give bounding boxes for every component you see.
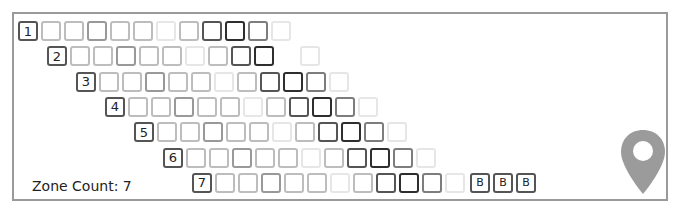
zone-cell[interactable] (185, 46, 205, 66)
zone-cell[interactable] (174, 97, 194, 117)
zone-cell[interactable] (145, 72, 165, 92)
zone-cell[interactable] (376, 173, 396, 193)
zone-label[interactable]: 4 (105, 97, 125, 117)
zone-cell[interactable] (416, 148, 436, 168)
zone-cell[interactable] (347, 148, 367, 168)
zone-row-5: 5 (134, 122, 410, 142)
zone-cell[interactable] (266, 97, 286, 117)
zone-row-7: 7BBB (192, 173, 539, 193)
zone-cell[interactable] (237, 72, 257, 92)
zone-cell[interactable] (387, 122, 407, 142)
zone-cell[interactable] (162, 46, 182, 66)
zone-cell[interactable] (301, 148, 321, 168)
zone-cell[interactable] (197, 97, 217, 117)
zone-row-6: 6 (163, 148, 439, 168)
zone-cell[interactable] (186, 148, 206, 168)
zone-cell[interactable] (41, 21, 61, 41)
zone-label[interactable]: 3 (76, 72, 96, 92)
zone-cell[interactable] (238, 173, 258, 193)
zone-cell[interactable] (330, 173, 350, 193)
zone-cell[interactable] (364, 122, 384, 142)
zone-cell[interactable] (220, 97, 240, 117)
zone-cell[interactable] (202, 21, 222, 41)
zone-cell[interactable] (232, 148, 252, 168)
zone-cell[interactable] (353, 173, 373, 193)
zone-cell[interactable] (393, 148, 413, 168)
zone-cell[interactable] (157, 122, 177, 142)
zone-cell[interactable] (214, 72, 234, 92)
zone-cell[interactable] (156, 21, 176, 41)
zone-cell[interactable] (93, 46, 113, 66)
zone-cell[interactable] (284, 173, 304, 193)
zone-cell[interactable] (399, 173, 419, 193)
zone-cell[interactable] (300, 46, 320, 66)
zone-cell[interactable] (422, 173, 442, 193)
b-zone-cell[interactable]: B (493, 173, 513, 193)
zone-cell[interactable] (306, 72, 326, 92)
zone-cell[interactable] (370, 148, 390, 168)
zone-cell[interactable] (209, 148, 229, 168)
zone-cell[interactable] (295, 122, 315, 142)
zone-cell[interactable] (283, 72, 303, 92)
zone-cell[interactable] (110, 21, 130, 41)
zone-cell[interactable] (203, 122, 223, 142)
zone-label[interactable]: 5 (134, 122, 154, 142)
zone-cell[interactable] (260, 72, 280, 92)
zone-cell[interactable] (64, 21, 84, 41)
zone-label[interactable]: 1 (18, 21, 38, 41)
zone-cell[interactable] (168, 72, 188, 92)
zone-label[interactable]: 2 (47, 46, 67, 66)
map-pin-icon (618, 128, 668, 198)
zone-cell[interactable] (231, 46, 251, 66)
zone-cell[interactable] (272, 122, 292, 142)
b-zone-cell[interactable]: B (470, 173, 490, 193)
zone-cell[interactable] (139, 46, 159, 66)
zone-cell[interactable] (122, 72, 142, 92)
zone-cell[interactable] (179, 21, 199, 41)
zone-row-2: 2 (47, 46, 323, 66)
zone-cell[interactable] (255, 148, 275, 168)
zone-cell[interactable] (191, 72, 211, 92)
zone-cell[interactable] (70, 46, 90, 66)
b-zone-cell[interactable]: B (516, 173, 536, 193)
zone-cell[interactable] (180, 122, 200, 142)
zone-label[interactable]: 6 (163, 148, 183, 168)
zone-cell[interactable] (445, 173, 465, 193)
zone-count-label: Zone Count: 7 (32, 178, 132, 194)
zone-cell[interactable] (248, 21, 268, 41)
zone-cell[interactable] (289, 97, 309, 117)
zone-cell[interactable] (226, 122, 246, 142)
zone-cell[interactable] (307, 173, 327, 193)
zone-label[interactable]: 7 (192, 173, 212, 193)
zone-cell[interactable] (324, 148, 344, 168)
zone-cell[interactable] (151, 97, 171, 117)
zone-cell[interactable] (225, 21, 245, 41)
zone-cell[interactable] (341, 122, 361, 142)
zone-row-4: 4 (105, 97, 381, 117)
zone-cell[interactable] (254, 46, 274, 66)
zone-cell[interactable] (278, 148, 298, 168)
zone-cell[interactable] (271, 21, 291, 41)
zone-cell[interactable] (133, 21, 153, 41)
zone-cell[interactable] (335, 97, 355, 117)
zone-cell[interactable] (87, 21, 107, 41)
zone-cell[interactable] (358, 97, 378, 117)
zone-row-1: 1 (18, 21, 294, 41)
zone-cell[interactable] (215, 173, 235, 193)
zone-cell[interactable] (261, 173, 281, 193)
zone-cell[interactable] (116, 46, 136, 66)
zone-cell[interactable] (128, 97, 148, 117)
zone-cell[interactable] (208, 46, 228, 66)
zone-cell[interactable] (99, 72, 119, 92)
zone-cell[interactable] (318, 122, 338, 142)
zone-cell[interactable] (329, 72, 349, 92)
zone-cell[interactable] (249, 122, 269, 142)
zone-cell[interactable] (312, 97, 332, 117)
zone-row-3: 3 (76, 72, 352, 92)
zone-cell[interactable] (243, 97, 263, 117)
